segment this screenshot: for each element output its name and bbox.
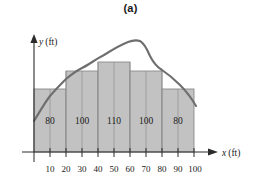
x-axis-var: x: [221, 148, 227, 158]
x-tick-labels-group: 10 20 30 40 50 60 70 80 90 100: [46, 164, 203, 174]
x-tick-label-40: 40: [94, 164, 104, 174]
y-axis-arrow-icon: [30, 34, 37, 43]
bar-label-4: 80: [173, 116, 183, 126]
bar-label-3: 100: [139, 116, 154, 126]
chart-canvas: 80 100 110 100 80 10 20 30 40 50 60 70 8…: [0, 0, 261, 187]
bar-label-1: 100: [75, 116, 90, 126]
figure-title: (a): [0, 2, 261, 14]
bar-label-2: 110: [107, 116, 121, 126]
y-axis-unit: (ft): [45, 37, 57, 48]
x-axis-arrow-icon: [208, 148, 218, 155]
x-tick-label-50: 50: [110, 164, 120, 174]
x-tick-label-60: 60: [126, 164, 136, 174]
y-axis-var: y: [38, 37, 44, 47]
x-tick-label-80: 80: [158, 164, 168, 174]
x-tick-label-10: 10: [46, 164, 56, 174]
figure-container: (a): [0, 0, 261, 187]
x-tick-label-90: 90: [174, 164, 184, 174]
x-axis-unit: (ft): [228, 148, 240, 159]
y-axis-label: y(ft): [38, 37, 57, 48]
x-tick-label-30: 30: [78, 164, 88, 174]
x-tick-label-70: 70: [142, 164, 152, 174]
x-tick-label-20: 20: [62, 164, 72, 174]
bar-label-0: 80: [45, 116, 55, 126]
x-axis-label: x(ft): [221, 148, 240, 159]
x-tick-label-100: 100: [188, 164, 202, 174]
